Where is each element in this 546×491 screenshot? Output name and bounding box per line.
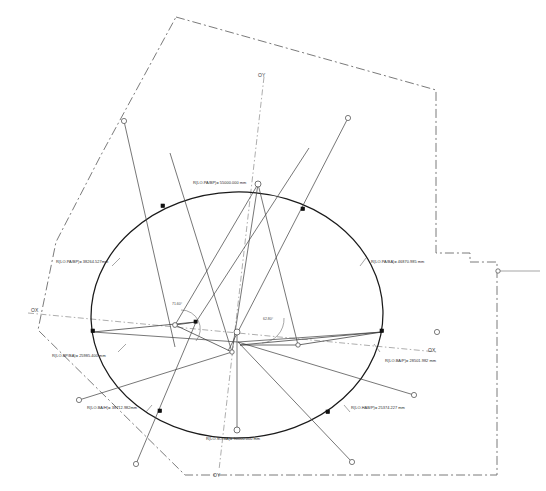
leader-upper-left bbox=[112, 258, 120, 266]
ray-right-horizon bbox=[238, 332, 382, 342]
angle-label-right: 62.80° bbox=[263, 317, 274, 321]
oy-top-label: OY bbox=[258, 72, 266, 78]
technical-drawing-svg: OY OY OX OX R(LO.PA/BP)= 55000.000 mm R(… bbox=[0, 0, 546, 491]
leader-mid-right bbox=[374, 344, 380, 352]
ray-lower-right-1 bbox=[238, 342, 352, 462]
filled-square-node bbox=[194, 320, 197, 323]
radius-label-mid-right: R(LO.BA/P)= 28501.982 mm bbox=[385, 358, 436, 363]
cad-drawing-canvas: OY OY OX OX R(LO.PA/BP)= 55000.000 mm R(… bbox=[0, 0, 546, 491]
angle-arc-left bbox=[181, 310, 200, 341]
filled-square-node bbox=[380, 329, 384, 333]
leader-lower-left bbox=[146, 405, 152, 412]
radius-label-upper-left: R(LO.PA/BP)= 38264.527mm bbox=[56, 259, 108, 264]
radius-label-bottom-center: R(LO.SO.BA)= 90000.000 mm bbox=[206, 436, 260, 441]
open-circle-node bbox=[345, 115, 350, 120]
ox-left-label: OX bbox=[31, 307, 39, 313]
ray-lower-left-2 bbox=[79, 352, 232, 400]
radius-label-top-center: R(LO.PA/BP)= 55000.000 mm bbox=[193, 180, 246, 185]
filled-square-node bbox=[91, 329, 95, 333]
leader-mid-left bbox=[118, 344, 126, 352]
chord-lines-group bbox=[93, 322, 382, 352]
oy-axis-line bbox=[219, 77, 264, 470]
ring-node-valley bbox=[230, 350, 234, 354]
radius-label-upper-right: R(LO.PA/BA)= 46870.985 mm bbox=[371, 259, 424, 264]
ray-apex-center bbox=[232, 184, 258, 352]
radial-rays-group bbox=[79, 118, 414, 464]
open-circle-node bbox=[349, 459, 354, 464]
filled-square-node bbox=[326, 410, 330, 414]
open-circle-node bbox=[434, 329, 439, 334]
open-circle-node bbox=[133, 461, 138, 466]
open-circle-node bbox=[411, 392, 416, 397]
filled-square-node bbox=[161, 204, 165, 208]
ring-node-right bbox=[296, 343, 300, 347]
radius-labels-group: R(LO.PA/BP)= 55000.000 mm R(LO.PA/BP)= 3… bbox=[52, 180, 436, 441]
ring-node-bottom bbox=[234, 427, 240, 433]
chord-left-cluster-a bbox=[93, 322, 196, 332]
radius-label-lower-left: R(LO.BA/H)= 38712.982mm bbox=[87, 405, 137, 410]
ring-node-apex bbox=[255, 181, 261, 187]
filled-square-node bbox=[301, 207, 305, 211]
angle-arcs-group bbox=[181, 310, 284, 343]
filled-square-node bbox=[158, 409, 162, 413]
ring-node-left bbox=[173, 323, 178, 328]
angle-label-left: 71.60° bbox=[172, 302, 183, 306]
ray-lower-right-2 bbox=[238, 342, 414, 395]
open-circle-node bbox=[76, 397, 81, 402]
ray-upper-right-2 bbox=[196, 148, 309, 322]
open-node-markers-group bbox=[76, 115, 540, 466]
radius-label-lower-right: R(LO.HAB/P)= 25374.227 mm bbox=[351, 405, 405, 410]
ray-apex-left bbox=[175, 184, 258, 325]
ray-lower-left-1 bbox=[136, 322, 196, 464]
open-circle-node bbox=[496, 269, 500, 273]
open-circle-node bbox=[121, 118, 126, 123]
ray-upper-left-1 bbox=[124, 121, 175, 347]
radius-label-mid-left: R(LO.BP/BA)= 25985.400 mm bbox=[52, 353, 106, 358]
oy-bottom-label: OY bbox=[213, 472, 221, 478]
ray-left-horizon bbox=[93, 332, 238, 342]
ring-node-center bbox=[234, 329, 240, 335]
ring-node-markers-group bbox=[173, 181, 301, 433]
ox-right-label: OX bbox=[428, 347, 436, 353]
leader-upper-right bbox=[360, 258, 366, 266]
leader-lower-right bbox=[344, 405, 350, 412]
